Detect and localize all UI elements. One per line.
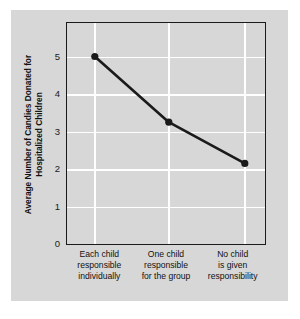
x-category-3-line-1: No child xyxy=(199,249,266,260)
y-axis-title: Average Number of Candies Donated for Ho… xyxy=(23,30,44,240)
x-category-2-line-1: One child xyxy=(133,249,200,260)
x-category-2-line-2: responsible xyxy=(133,260,200,271)
x-category-label-3: No child is given responsibility xyxy=(199,249,266,283)
plot-area xyxy=(66,22,266,245)
y-tick-label-0: 0 xyxy=(42,239,60,249)
x-category-1-line-3: individually xyxy=(66,271,133,282)
y-axis-title-line-1: Average Number of Candies Donated for xyxy=(23,30,34,240)
y-tick-label-2: 2 xyxy=(42,164,60,174)
x-category-label-2: One child responsible for the group xyxy=(133,249,200,283)
x-category-3-line-2: is given xyxy=(199,260,266,271)
x-category-label-1: Each child responsible individually xyxy=(66,249,133,283)
x-category-3-line-3: responsibility xyxy=(199,271,266,282)
series-polyline xyxy=(95,57,245,164)
data-point-2 xyxy=(165,119,172,126)
x-axis-category-labels: Each child responsible individually One … xyxy=(66,249,266,283)
x-category-1-line-1: Each child xyxy=(66,249,133,260)
data-point-3 xyxy=(241,160,248,167)
data-point-1 xyxy=(91,53,98,60)
y-tick-label-1: 1 xyxy=(42,202,60,212)
x-category-2-line-3: for the group xyxy=(133,271,200,282)
y-tick-label-5: 5 xyxy=(42,52,60,62)
y-tick-label-3: 3 xyxy=(42,127,60,137)
y-tick-label-4: 4 xyxy=(42,89,60,99)
chart-figure: Average Number of Candies Donated for Ho… xyxy=(0,0,300,319)
x-category-1-line-2: responsible xyxy=(66,260,133,271)
